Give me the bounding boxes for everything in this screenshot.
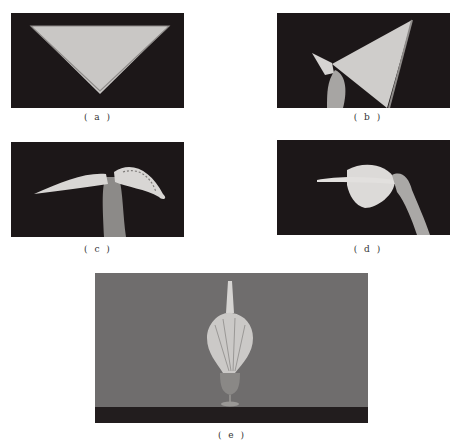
caption-a: ( a ) — [72, 112, 124, 122]
folded-triangle-napkin — [11, 13, 184, 108]
caption-c: ( c ) — [72, 244, 124, 254]
panel-e-photo — [95, 273, 368, 423]
table — [95, 407, 368, 423]
panel-b-photo — [277, 13, 450, 108]
panel-c-photo — [11, 142, 184, 237]
panel-d-photo — [277, 140, 450, 235]
rolling-triangle-napkin — [277, 13, 450, 108]
caption-d: ( d ) — [342, 244, 394, 254]
hand — [327, 70, 345, 108]
hand — [103, 177, 126, 237]
pleated-fan-napkin — [277, 140, 450, 235]
hand — [392, 173, 430, 235]
caption-b: ( b ) — [342, 112, 394, 122]
caption-e: ( e ) — [206, 430, 258, 440]
finished-fan-napkin-in-glass — [95, 273, 368, 423]
panel-a-photo — [11, 13, 184, 108]
pleated-wings-napkin — [11, 142, 184, 237]
